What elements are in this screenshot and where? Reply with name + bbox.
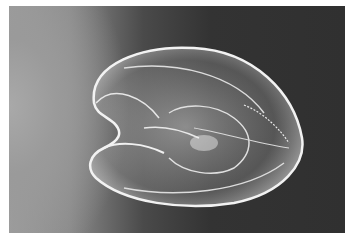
comb-jelly bbox=[84, 43, 306, 213]
photo bbox=[9, 6, 345, 233]
